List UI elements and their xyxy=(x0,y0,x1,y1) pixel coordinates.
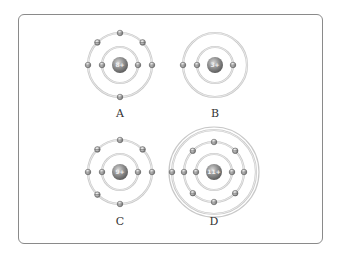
atom-b: 3+B xyxy=(180,33,247,120)
atom-d: 11+D xyxy=(169,127,259,228)
atomic-structure-diagrams: 8+A3+B9+C11+D xyxy=(0,0,343,253)
nucleus-charge: 3+ xyxy=(210,61,219,68)
nucleus-charge: 11+ xyxy=(207,168,220,175)
atom-label: A xyxy=(115,107,125,120)
atom-label: D xyxy=(210,215,219,228)
atom-label: C xyxy=(116,215,124,228)
nucleus-charge: 9+ xyxy=(115,168,124,175)
atom-c: 9+C xyxy=(85,137,155,228)
nucleus-charge: 8+ xyxy=(115,61,124,68)
atom-label: B xyxy=(211,107,219,120)
atom-a: 8+A xyxy=(85,30,155,120)
